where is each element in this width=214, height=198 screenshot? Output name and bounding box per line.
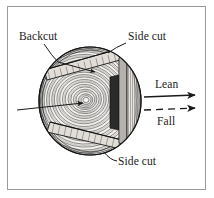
label-side-cut-top: Side cut	[128, 31, 166, 43]
label-fall: Fall	[157, 116, 175, 128]
side-cut-top-leader	[108, 43, 126, 53]
stump-body	[29, 46, 141, 155]
fall-arrow	[144, 108, 195, 110]
label-lean: Lean	[155, 79, 178, 91]
lean-arrow	[144, 95, 195, 97]
side-cut-bottom-leader	[104, 152, 117, 161]
label-side-cut-bottom: Side cut	[118, 156, 156, 168]
figure-root: Backcut Side cut Lean Fall Side cut	[0, 0, 214, 198]
label-backcut: Backcut	[19, 31, 57, 43]
backcut-leader-curve	[44, 44, 58, 62]
